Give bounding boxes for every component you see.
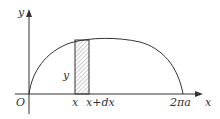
- y-axis-label: y: [17, 6, 25, 19]
- strip-right-label: x+dx: [86, 96, 115, 109]
- x-axis-label: x: [205, 96, 212, 109]
- y-axis: [26, 9, 32, 114]
- end-point-label: 2πa: [169, 96, 191, 109]
- strip-height-label: y: [62, 69, 70, 82]
- cycloid-curve: [29, 38, 183, 94]
- y-axis-arrow-icon: [26, 9, 32, 17]
- origin-label: O: [16, 96, 25, 109]
- area-strip: [75, 40, 89, 94]
- x-axis-arrow-icon: [195, 91, 203, 97]
- strip-left-label: x: [72, 96, 79, 109]
- cycloid-area-diagram: y x O x x+dx y 2πa: [0, 0, 220, 119]
